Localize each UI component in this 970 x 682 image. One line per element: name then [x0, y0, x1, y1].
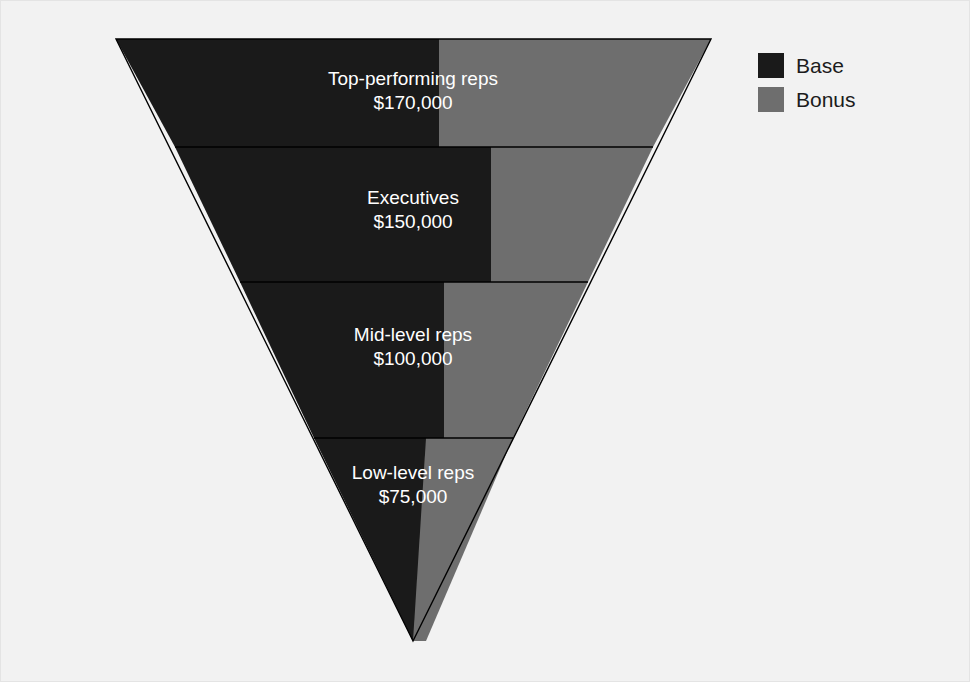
funnel-row-1[interactable]: Top-performing reps $170,000 — [116, 39, 711, 147]
funnel-row-3-bonus-segment[interactable] — [444, 282, 588, 438]
funnel-row-2[interactable]: Executives $150,000 — [175, 147, 653, 282]
legend-swatch-bonus-icon — [758, 87, 784, 112]
funnel-row-1-bonus-segment[interactable] — [439, 39, 711, 147]
legend-item-bonus[interactable]: Bonus — [758, 87, 856, 112]
funnel-row-1-label: Top-performing reps — [328, 68, 498, 89]
funnel-chart-svg: Top-performing reps $170,000 Executives … — [1, 1, 970, 682]
funnel-row-2-bonus-segment[interactable] — [491, 147, 653, 282]
funnel-chart-container: Top-performing reps $170,000 Executives … — [0, 0, 970, 682]
legend-swatch-base-icon — [758, 53, 784, 78]
funnel-row-4-label: Low-level reps — [352, 462, 475, 483]
funnel-row-1-value: $170,000 — [373, 92, 452, 113]
funnel-row-2-value: $150,000 — [373, 211, 452, 232]
legend-label-bonus: Bonus — [796, 88, 856, 111]
funnel-row-2-label: Executives — [367, 187, 459, 208]
legend-label-base: Base — [796, 54, 844, 77]
funnel-row-4[interactable]: Low-level reps $75,000 — [314, 438, 513, 641]
funnel-row-3[interactable]: Mid-level reps $100,000 — [240, 282, 588, 438]
legend-item-base[interactable]: Base — [758, 53, 844, 78]
chart-legend: Base Bonus — [758, 53, 856, 112]
funnel-row-4-value: $75,000 — [379, 486, 448, 507]
funnel-row-3-value: $100,000 — [373, 348, 452, 369]
funnel-row-3-label: Mid-level reps — [354, 324, 472, 345]
